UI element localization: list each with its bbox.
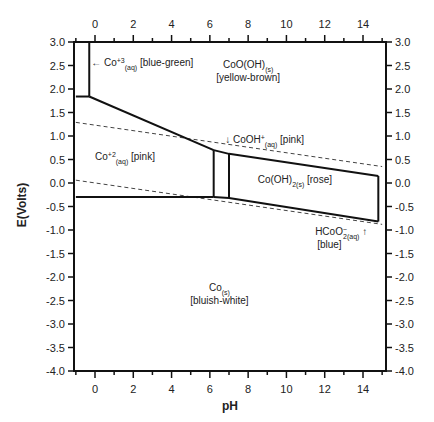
x-tick-label-bottom: 12: [319, 383, 331, 395]
plot-border: [74, 42, 386, 371]
phase-boundary-line: [214, 150, 229, 154]
y-tick-label-left: -2.0: [46, 271, 65, 283]
y-tick-label-right: -2.0: [395, 271, 414, 283]
y-tick-label-left: 1.0: [50, 130, 65, 142]
y-tick-label-left: -4.0: [46, 365, 65, 377]
x-tick-label-bottom: 4: [169, 383, 175, 395]
y-tick-label-right: -1.5: [395, 248, 414, 260]
x-tick-label-bottom: 14: [357, 383, 369, 395]
x-tick-label-bottom: 2: [130, 383, 136, 395]
pourbaix-diagram: 00224466881010121214143.03.02.52.52.02.0…: [0, 0, 434, 422]
y-tick-label-right: 3.0: [395, 36, 410, 48]
y-tick-label-left: -1.0: [46, 224, 65, 236]
y-tick-label-left: -1.5: [46, 248, 65, 260]
y-tick-label-right: 1.5: [395, 107, 410, 119]
y-tick-label-right: 2.0: [395, 83, 410, 95]
y-tick-label-left: 3.0: [50, 36, 65, 48]
region-label: ↓ CoOH+(aq) [pink]: [225, 134, 304, 149]
region-label: Co+2(aq) [pink]: [95, 150, 155, 165]
x-tick-label-top: 14: [357, 18, 369, 30]
x-tick-label-top: 4: [169, 18, 175, 30]
y-tick-label-right: -1.0: [395, 224, 414, 236]
phase-boundary-line: [89, 97, 213, 151]
x-axis-label: pH: [222, 399, 238, 413]
y-tick-label-left: -3.5: [46, 342, 65, 354]
y-axis-label: E(Volts): [15, 183, 29, 227]
region-label: ← Co+3(aq) [blue-green]: [91, 56, 193, 71]
y-tick-label-right: -0.5: [395, 201, 414, 213]
y-tick-label-right: -3.5: [395, 342, 414, 354]
x-tick-label-bottom: 10: [280, 383, 292, 395]
region-color-label: [blue]: [317, 239, 342, 250]
phase-boundary-line: [214, 197, 229, 198]
x-tick-label-bottom: 8: [245, 383, 251, 395]
y-tick-label-left: 1.5: [50, 107, 65, 119]
x-tick-label-top: 12: [319, 18, 331, 30]
phase-boundary-line: [229, 198, 378, 222]
y-tick-label-left: 2.0: [50, 83, 65, 95]
y-tick-label-left: 0.5: [50, 154, 65, 166]
y-tick-label-right: -2.5: [395, 295, 414, 307]
y-tick-label-right: 1.0: [395, 130, 410, 142]
y-tick-label-left: -0.5: [46, 201, 65, 213]
x-tick-label-top: 6: [207, 18, 213, 30]
y-tick-label-left: 0.0: [50, 177, 65, 189]
y-tick-label-right: -4.0: [395, 365, 414, 377]
x-tick-label-top: 0: [92, 18, 98, 30]
x-tick-label-top: 8: [245, 18, 251, 30]
x-tick-label-bottom: 6: [207, 383, 213, 395]
phase-boundary-line: [229, 154, 378, 176]
region-color-label: [yellow-brown]: [216, 72, 280, 83]
plot-frame: [74, 42, 386, 371]
x-tick-label-top: 10: [280, 18, 292, 30]
region-label: Co(OH)2(s) [rose]: [258, 174, 333, 189]
y-tick-label-right: 0.5: [395, 154, 410, 166]
y-tick-label-left: -3.0: [46, 318, 65, 330]
region-color-label: [bluish-white]: [190, 295, 249, 306]
y-tick-label-right: 2.5: [395, 60, 410, 72]
y-tick-label-right: -3.0: [395, 318, 414, 330]
y-tick-label-right: 0.0: [395, 177, 410, 189]
y-tick-label-left: 2.5: [50, 60, 65, 72]
y-tick-label-left: -2.5: [46, 295, 65, 307]
x-tick-label-bottom: 0: [92, 383, 98, 395]
x-tick-label-top: 2: [130, 18, 136, 30]
